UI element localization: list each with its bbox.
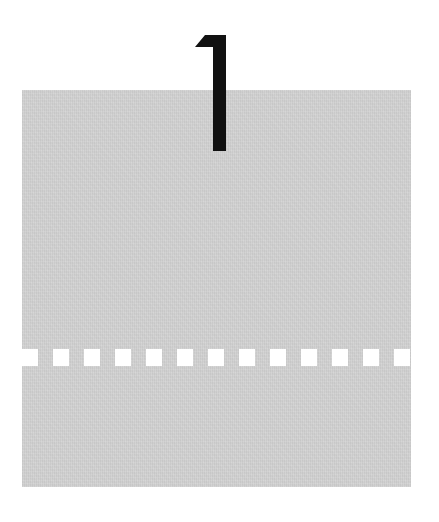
perforation-square xyxy=(208,349,224,366)
perforation-square xyxy=(84,349,100,366)
perforation-square xyxy=(363,349,379,366)
perforation-square xyxy=(22,349,38,366)
perforation-square xyxy=(301,349,317,366)
perforation-square xyxy=(239,349,255,366)
numeral-one-icon xyxy=(195,35,228,152)
perforation-square xyxy=(53,349,69,366)
perforation-square xyxy=(177,349,193,366)
perforation-square xyxy=(332,349,348,366)
perforation-strip xyxy=(22,349,411,366)
perforation-square xyxy=(270,349,286,366)
perforation-square xyxy=(146,349,162,366)
perforation-square xyxy=(394,349,410,366)
section-number-marker: 1 xyxy=(195,35,228,152)
perforation-square xyxy=(115,349,131,366)
